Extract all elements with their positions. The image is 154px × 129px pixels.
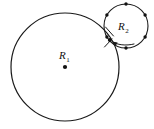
- small-circle-dot-upper-left: [105, 13, 108, 16]
- tangency-point-dot: [108, 38, 112, 42]
- small-circle-dot-lower-right: [143, 35, 146, 38]
- small-circle-dot-lower-left: [105, 35, 108, 38]
- small-circle-dot-bottom: [124, 46, 127, 49]
- tangency-tick-upper: [106, 27, 114, 36]
- large-circle-label-subscript: 1: [66, 56, 70, 64]
- large-circle-center-dot: [63, 65, 67, 69]
- large-circle-label-letter: R: [58, 49, 66, 61]
- small-circle-label-letter: R: [117, 20, 125, 32]
- small-circle-label: R2: [117, 20, 129, 35]
- small-circle-dot-top: [124, 2, 127, 5]
- geometry-figure: R1 R2: [0, 0, 154, 129]
- small-circle-dot-upper-right: [143, 13, 146, 16]
- large-circle-label: R1: [58, 49, 70, 64]
- figure-container: R1 R2: [0, 0, 154, 129]
- small-circle-label-subscript: 2: [125, 27, 129, 35]
